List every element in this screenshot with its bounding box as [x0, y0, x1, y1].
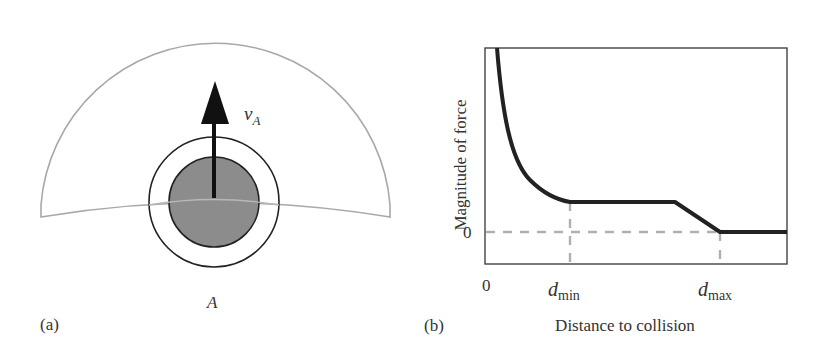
panel-b-tag: (b): [424, 316, 444, 335]
y-axis-label: Magnitude of force: [451, 99, 470, 230]
velocity-arrow-head-icon: [201, 81, 229, 124]
x-zero-label: 0: [482, 276, 491, 295]
dmax-label: dmax: [698, 278, 732, 303]
force-curve: [497, 48, 787, 232]
agent-label: A: [206, 293, 218, 312]
panel-a-tag: (a): [40, 315, 59, 334]
figure: vA A (a) 0 0 dmin dmax Magnitude of forc…: [0, 0, 825, 352]
panel-b: 0 0 dmin dmax Magnitude of force Distanc…: [424, 48, 787, 335]
x-axis-label: Distance to collision: [555, 316, 695, 335]
dmin-label: dmin: [548, 278, 580, 303]
velocity-label: vA: [244, 103, 260, 128]
panel-a: vA A (a): [40, 43, 390, 334]
